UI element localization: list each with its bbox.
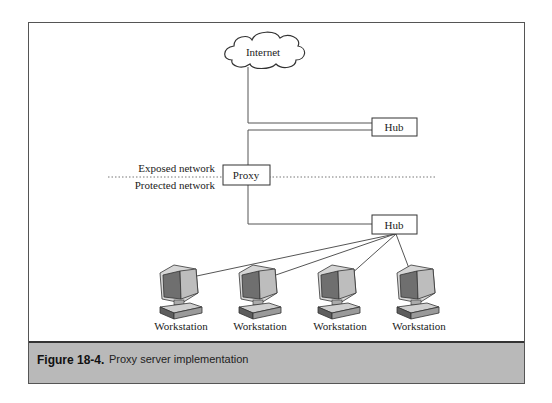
protected-network-label: Protected network — [135, 179, 216, 191]
workstation-icon — [397, 265, 439, 319]
workstation-label: Workstation — [233, 320, 287, 332]
proxy-label: Proxy — [233, 169, 260, 181]
workstation-label: Workstation — [154, 320, 208, 332]
hub-top-label: Hub — [385, 121, 404, 133]
workstation-label: Workstation — [313, 320, 367, 332]
internet-label: Internet — [246, 46, 280, 58]
workstation-icon — [239, 265, 281, 319]
workstation-label: Workstation — [392, 320, 446, 332]
workstation-icon — [160, 265, 202, 319]
hub-bottom-label: Hub — [385, 219, 404, 231]
exposed-network-label: Exposed network — [138, 162, 215, 174]
workstation-icon — [318, 265, 360, 319]
network-diagram: Internet Hub Exposed network Protected n… — [0, 0, 552, 403]
